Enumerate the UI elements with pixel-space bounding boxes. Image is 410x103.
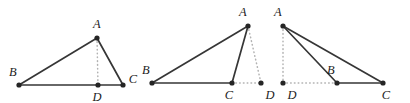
- vertex-label-d: D: [92, 91, 101, 103]
- vertex-point-a: [245, 23, 250, 28]
- vertex-label-b: B: [9, 66, 17, 79]
- vertex-point-b: [149, 80, 154, 85]
- edge-AB: [19, 38, 97, 85]
- vertex-point-c: [380, 80, 385, 85]
- vertex-point-c: [229, 80, 234, 85]
- acute-triangle-foot-inside: [16, 35, 125, 87]
- vertex-point-b: [334, 80, 339, 85]
- vertex-label-d: D: [265, 89, 274, 102]
- vertex-label-a: A: [93, 18, 101, 31]
- vertex-label-c: C: [129, 73, 138, 86]
- vertex-point-d: [258, 80, 263, 85]
- geometry-canvas: [0, 0, 410, 103]
- altitude-AD: [248, 26, 261, 83]
- geometry-figure: ABCDABCDABCD: [0, 0, 410, 103]
- vertex-label-c: C: [382, 89, 391, 102]
- altitude-AD: [97, 38, 98, 85]
- edge-AC: [97, 38, 123, 85]
- vertex-label-c: C: [225, 89, 234, 102]
- vertex-label-a: A: [274, 6, 282, 19]
- vertex-point-b: [16, 82, 21, 87]
- vertex-point-d: [95, 82, 100, 87]
- obtuse-triangle-foot-right-of-C: [149, 23, 263, 85]
- vertex-point-d: [280, 80, 285, 85]
- vertex-label-b: B: [327, 64, 335, 77]
- vertex-label-d: D: [287, 89, 296, 102]
- vertex-label-b: B: [142, 64, 150, 77]
- vertex-label-a: A: [239, 6, 247, 19]
- vertex-point-c: [120, 82, 125, 87]
- vertex-point-a: [94, 35, 99, 40]
- vertex-point-a: [280, 23, 285, 28]
